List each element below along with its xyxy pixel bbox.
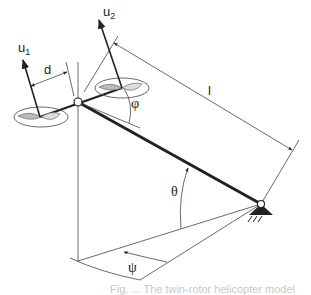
l-label: l: [208, 83, 211, 98]
left-propeller: [14, 107, 68, 127]
phi-label: φ: [131, 96, 139, 111]
tilted-reference-line: [84, 36, 118, 92]
base-support: [248, 201, 273, 223]
theta-arc: [180, 168, 188, 229]
phi-arc: [124, 88, 131, 123]
psi-label: ψ: [128, 260, 137, 275]
u2-label: u2: [103, 4, 115, 21]
projection-line-1: [78, 204, 261, 261]
projection-line-2: [140, 204, 261, 280]
u1-label: u1: [18, 40, 30, 57]
l-reference-line: [261, 140, 299, 204]
figure-caption: Fig. ... The twin-rotor helicopter model: [110, 283, 295, 295]
l-dimension-line: [114, 43, 292, 150]
d-label: d: [44, 62, 51, 77]
main-beam: [78, 102, 261, 204]
top-pivot-joint: [74, 98, 82, 106]
d-reference-line: [66, 62, 74, 96]
u2-thrust-arrow: [99, 20, 122, 88]
theta-label: θ: [171, 184, 178, 199]
